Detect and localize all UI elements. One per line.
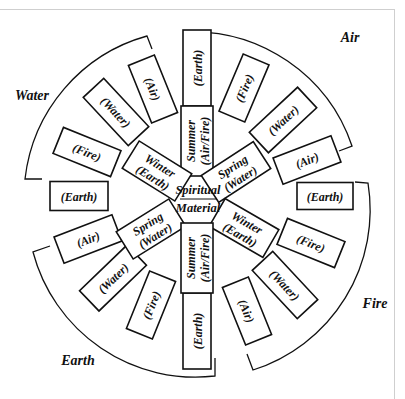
outer-box-water-fire-quad: (Water) [252,251,317,318]
box-label: (Earth) [191,50,205,87]
box-label: (Earth) [191,313,205,350]
center-hub: Spiritual Material [175,183,221,215]
box-label: (Earth) [61,190,98,204]
outer-box-fire-earth-quad: (Fire) [126,271,175,339]
outer-box-fire-air-quad: (Fire) [219,54,269,122]
outer-box-earth-bottom: (Earth) [183,293,211,369]
outer-box-fire-water-quad: (Fire) [53,127,121,176]
inner-box-summer-top: Summer(Air/Fire) [181,106,213,176]
center-label-spiritual: Spiritual [175,183,221,197]
inner-box-summer-bottom: Summer(Air/Fire) [181,223,213,293]
season-name: Summer [184,120,198,162]
season-element: (Air/Fire) [198,234,212,283]
outer-box-air-air-quad: (Air) [273,136,341,184]
outer-box-water-air-quad: (Water) [249,87,316,152]
outer-box-earth-top: (Earth) [183,30,211,106]
center-label-material: Material [175,201,221,215]
outer-box-air-fire-quad: (Air) [222,277,271,345]
outer-box-earth-right: (Earth) [297,183,353,210]
quadrant-label-air: Air [340,30,360,45]
outer-box-air-earth-quad: (Air) [54,215,122,263]
quadrant-label-earth: Earth [60,353,95,368]
quadrant-label-fire: Fire [362,296,388,311]
box-label: (Earth) [307,190,344,204]
outer-box-earth-left: (Earth) [50,182,108,211]
season-name: Summer [184,237,198,279]
outer-box-fire-fire-quad: (Fire) [277,218,345,267]
quadrant-label-water: Water [15,88,50,103]
season-element: (Air/Fire) [198,117,212,166]
